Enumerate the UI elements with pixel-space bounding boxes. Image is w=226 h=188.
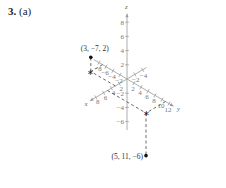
point-marker [144, 154, 148, 158]
y-tick-label: 8 [152, 97, 156, 105]
z-axis-label: z [124, 3, 128, 11]
z-tick-label: −4 [117, 104, 125, 112]
z-tick-label: −6 [117, 118, 125, 126]
y-axis-label: y [176, 105, 181, 113]
z-tick-label: 2 [121, 61, 125, 69]
point-marker [89, 56, 93, 60]
z-tick-label: 8 [121, 19, 125, 27]
point-label: (5, 11, −6) [112, 152, 144, 161]
x-tick-label: 4 [112, 89, 116, 97]
x-tick-label: 6 [104, 94, 108, 102]
projection-star-icon: ∗ [143, 109, 150, 118]
y-tick-label: 6 [145, 93, 149, 101]
3d-coordinate-diagram: −4−22468−8−6−4−224681012−6−4−22468 ∗(3, … [0, 0, 226, 188]
axis-ticks: −4−22468−8−6−4−224681012−6−4−22468 [94, 19, 172, 126]
z-tick-label: 6 [121, 33, 125, 41]
y-tick-label: −2 [115, 77, 123, 85]
point-label: (3, −7, 2) [81, 44, 109, 53]
y-tick-label: 2 [131, 85, 135, 93]
x-tick-label: −4 [140, 72, 148, 80]
projection-star-icon: ∗ [87, 68, 94, 77]
x-tick-label: −2 [132, 76, 140, 84]
y-tick-label: 12 [165, 106, 173, 114]
z-tick-label: 4 [121, 47, 125, 55]
y-tick-label: 4 [138, 89, 142, 97]
plotted-points: ∗(3, −7, 2)∗(5, 11, −6) [81, 44, 150, 160]
x-tick-label: 8 [96, 98, 100, 106]
x-axis-label: x [83, 100, 88, 108]
z-axis-arrow-icon [125, 14, 128, 18]
